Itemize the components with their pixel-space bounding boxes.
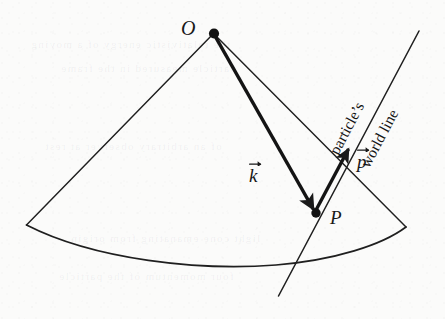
wave-vector-label: k — [249, 160, 257, 185]
particle-world-line — [279, 31, 420, 296]
origin-event-dot — [209, 28, 219, 38]
wave-vector-label-wrap: k — [249, 160, 257, 185]
vector-arrow-icon — [249, 160, 262, 166]
p-vector-arrow — [316, 149, 349, 211]
diagram-canvas — [0, 0, 445, 319]
k-vector-arrow — [215, 36, 314, 210]
event-point-dot — [311, 208, 320, 217]
wave-vector-symbol: k — [249, 165, 257, 186]
cone-left-generator-line — [27, 33, 215, 225]
event-point-label: P — [330, 208, 342, 227]
light-cone-figure: the relativistic energy of a moving part… — [0, 0, 445, 319]
origin-point-label: O — [181, 18, 195, 38]
cone-base-ellipse-arc — [27, 225, 407, 267]
